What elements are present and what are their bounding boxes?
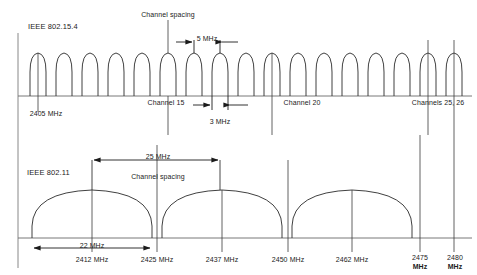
lower-spacing-value: 25 MHz [146, 153, 171, 161]
lower-tick-label-2450: 2450 MHz [272, 256, 305, 264]
channel-allocation-diagram [0, 0, 477, 275]
lower-tick-label-2425: 2425 MHz [141, 256, 174, 264]
upper-chart-channel-peaks [30, 53, 462, 96]
lower-standard-label: IEEE 802.11 [27, 169, 70, 177]
lower-tick-unit-2475: MHz [413, 263, 428, 271]
upper-standard-label: IEEE 802.15.4 [28, 23, 78, 31]
upper-channels-25-26-label: Channels 25, 26 [412, 99, 464, 107]
lower-bandwidth-value: 22 MHz [80, 242, 105, 250]
lower-channel-spacing-label: Channel spacing [131, 173, 185, 181]
lower-tick-label-2475: 2475 [412, 254, 428, 262]
upper-callout-lines [38, 20, 454, 135]
upper-dimension-3mhz [193, 96, 248, 110]
lower-tick-label-2437: 2437 MHz [206, 256, 239, 264]
upper-channel-15-label: Channel 15 [148, 99, 185, 107]
upper-channel-spacing-label: Channel spacing [141, 11, 195, 19]
upper-first-channel-label: 2405 MHz [30, 110, 63, 118]
upper-channel-20-label: Channel 20 [284, 99, 321, 107]
lower-tick-label-2462: 2462 MHz [336, 256, 369, 264]
upper-spacing-value: 5 MHz [197, 35, 218, 43]
upper-width-value: 3 MHz [210, 118, 231, 126]
lower-tick-label-2480: 2480 [447, 254, 463, 262]
lower-tick-unit-2480: MHz [448, 263, 463, 271]
lower-tick-label-2412: 2412 MHz [76, 256, 109, 264]
figure-canvas: IEEE 802.15.4 Channel spacing 5 MHz 3 MH… [0, 0, 477, 275]
